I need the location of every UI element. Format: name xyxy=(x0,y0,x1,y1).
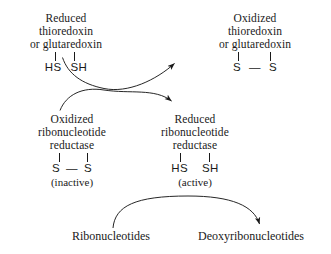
bond-tick-left xyxy=(180,153,181,162)
node-reduced-reductase: Reduced ribonucleotide reductase HSSH (a… xyxy=(130,113,260,188)
node-reduced-reductase-state: (active) xyxy=(130,176,260,188)
bond-tick-left xyxy=(59,153,60,162)
atom-left: HS xyxy=(45,61,62,73)
bond-ticks xyxy=(2,52,130,61)
arrow-reductase-reduction xyxy=(60,89,172,110)
node-oxidized-reductase-name: Oxidized ribonucleotide reductase xyxy=(8,113,136,152)
bond-tick-left xyxy=(55,52,56,61)
text-line: reductase xyxy=(8,139,136,152)
text-line: ribonucleotide xyxy=(8,126,136,139)
bond-tick-right xyxy=(209,153,210,162)
bond-ticks xyxy=(8,153,136,162)
text-line: Oxidized xyxy=(180,12,330,25)
text-line: Reduced xyxy=(130,113,260,126)
node-oxidized-reductase: Oxidized ribonucleotide reductase S—S (i… xyxy=(8,113,136,188)
atom-left: S xyxy=(52,162,60,174)
arrow-ribonucleotide-conversion xyxy=(113,196,260,228)
label-deoxyribonucleotides: Deoxyribonucleotides xyxy=(198,229,304,244)
node-reduced-reductase-name: Reduced ribonucleotide reductase xyxy=(130,113,260,152)
reaction-diagram: Reduced thioredoxin or glutaredoxin HSSH… xyxy=(0,0,331,254)
node-reduced-reductase-atoms: HSSH xyxy=(130,162,260,175)
disulfide-bond: — xyxy=(60,162,84,175)
node-oxidized-thioredoxin-atoms: S—S xyxy=(180,61,330,74)
node-oxidized-thioredoxin: Oxidized thioredoxin or glutaredoxin S—S xyxy=(180,12,330,74)
text-line: thioredoxin xyxy=(2,25,130,38)
text-line: ribonucleotide xyxy=(130,126,260,139)
node-reduced-thioredoxin: Reduced thioredoxin or glutaredoxin HSSH xyxy=(2,12,130,74)
bond-ticks xyxy=(130,153,260,162)
atom-right: S xyxy=(84,162,92,174)
bond-tick-left xyxy=(238,52,239,61)
atom-left: HS xyxy=(171,162,188,174)
label-ribonucleotides: Ribonucleotides xyxy=(72,229,150,244)
text-line: or glutaredoxin xyxy=(180,38,330,51)
bond-tick-right xyxy=(270,52,271,61)
node-oxidized-reductase-atoms: S—S xyxy=(8,162,136,175)
atom-right: SH xyxy=(202,162,219,174)
atom-right: S xyxy=(269,61,277,73)
node-reduced-thioredoxin-atoms: HSSH xyxy=(2,61,130,74)
node-reduced-thioredoxin-name: Reduced thioredoxin or glutaredoxin xyxy=(2,12,130,51)
atom-left: S xyxy=(233,61,241,73)
text-line: reductase xyxy=(130,139,260,152)
text-line: or glutaredoxin xyxy=(2,38,130,51)
node-oxidized-thioredoxin-name: Oxidized thioredoxin or glutaredoxin xyxy=(180,12,330,51)
bond-tick-right xyxy=(74,52,75,61)
text-line: Reduced xyxy=(2,12,130,25)
atom-right: SH xyxy=(71,61,88,73)
bond-ticks xyxy=(180,52,330,61)
text-line: Oxidized xyxy=(8,113,136,126)
node-oxidized-reductase-state: (inactive) xyxy=(8,176,136,188)
disulfide-bond: — xyxy=(241,61,269,74)
bond-tick-right xyxy=(87,153,88,162)
text-line: thioredoxin xyxy=(180,25,330,38)
